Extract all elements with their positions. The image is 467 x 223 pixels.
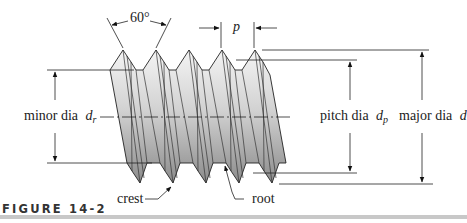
root-label: root	[252, 191, 275, 206]
figure-caption: FIGURE 14-2	[2, 202, 107, 216]
major-dia-label: major dia d	[399, 108, 467, 123]
minor-dia-label: minor dia dr	[24, 108, 97, 125]
thread-angle-label: 60°	[130, 10, 150, 25]
screw-thread-diagram: 60° p minor dia dr pitch dia dp major di…	[0, 0, 467, 223]
pitch-dia-label: pitch dia dp	[320, 108, 388, 125]
crest-label: crest	[117, 191, 144, 206]
caption-divider	[0, 215, 467, 219]
crest-leader	[145, 187, 171, 199]
pitch-label: p	[232, 19, 240, 34]
